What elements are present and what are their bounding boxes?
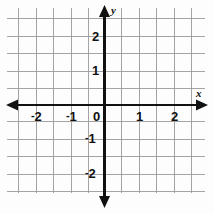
x-tick-label-pos-1: 1	[136, 110, 143, 123]
x-axis-arrow-left	[6, 100, 18, 111]
x-axis-name: x	[196, 88, 202, 99]
y-tick-label-pos-2: 2	[92, 30, 99, 43]
y-tick-label-neg-2: -2	[85, 167, 96, 180]
x-tick-label-neg-2: -2	[31, 110, 42, 123]
coordinate-plane-figure: -2 -1 0 1 2 2 1 -1 -2 x y	[0, 0, 214, 214]
y-axis-name: y	[111, 5, 116, 16]
y-axis	[99, 5, 110, 208]
y-tick-label-neg-1: -1	[85, 132, 96, 145]
y-axis-arrow-down	[99, 196, 110, 208]
x-tick-label-pos-2: 2	[171, 110, 178, 123]
y-axis-arrow-up	[99, 5, 110, 17]
graph-canvas	[0, 0, 214, 214]
x-tick-label-zero: 0	[93, 110, 100, 123]
y-tick-label-pos-1: 1	[92, 64, 99, 77]
x-axis-arrow-right	[196, 100, 208, 111]
x-tick-label-neg-1: -1	[66, 110, 77, 123]
